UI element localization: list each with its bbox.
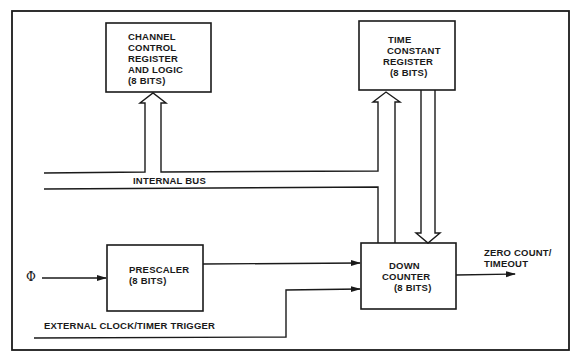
block-text: REGISTER [383, 56, 441, 67]
time-constant-to-counter-arrow [416, 90, 440, 243]
output-text: TIMEOUT [484, 258, 552, 269]
external-trigger-label: EXTERNAL CLOCK/TIMER TRIGGER [44, 320, 215, 331]
prescaler-label: PRESCALER (8 BITS) [129, 264, 189, 286]
block-text: (8 BITS) [129, 275, 189, 286]
channel-control-label: CHANNEL CONTROL REGISTER AND LOGIC (8 BI… [128, 31, 183, 86]
block-text: REGISTER [128, 53, 183, 64]
block-text: (8 BITS) [394, 282, 432, 293]
block-text: CHANNEL [128, 31, 183, 42]
block-text: DOWN [389, 260, 432, 271]
block-text: TIME [388, 34, 441, 45]
phi-symbol: Φ [26, 270, 36, 284]
output-text: ZERO COUNT/ [484, 247, 552, 258]
zero-count-output-line [456, 274, 515, 275]
block-text: COUNTER [382, 271, 432, 282]
block-text: PRESCALER [129, 264, 189, 275]
down-counter-label: DOWN COUNTER (8 BITS) [382, 260, 432, 293]
block-text: CONSTANT [387, 45, 441, 56]
internal-bus-label: INTERNAL BUS [133, 175, 206, 186]
internal-bus-top-line [44, 92, 400, 243]
internal-bus-bottom-line [44, 187, 378, 243]
block-text: (8 BITS) [390, 67, 441, 78]
block-diagram [0, 0, 576, 357]
prescaler-output-line [203, 263, 360, 264]
outer-frame [12, 11, 569, 350]
time-constant-label: TIME CONSTANT REGISTER (8 BITS) [388, 34, 441, 78]
block-text: CONTROL [128, 42, 183, 53]
block-text: AND LOGIC [128, 64, 183, 75]
zero-count-label: ZERO COUNT/ TIMEOUT [484, 247, 552, 269]
block-text: (8 BITS) [128, 75, 183, 86]
